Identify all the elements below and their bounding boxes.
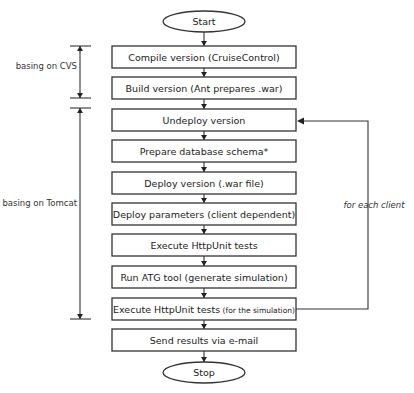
step-undeploy: Undeploy version — [112, 109, 296, 131]
arrow-down-icon — [201, 293, 207, 298]
arrow-down-icon — [77, 314, 83, 319]
step-label: Deploy version (.war file) — [144, 178, 264, 189]
loop-label: for each client — [344, 200, 406, 210]
arrow-down-icon — [201, 167, 207, 172]
loop-connector: for each client — [296, 118, 405, 310]
arrow-down-icon — [201, 261, 207, 266]
side-brackets: basing on CVSbasing on Tomcat — [2, 46, 91, 319]
arrow-down-icon — [201, 41, 207, 46]
flowchart: basing on CVSbasing on Tomcat for each c… — [0, 0, 414, 393]
step-note: (for the simulation) — [220, 306, 295, 315]
loop-line — [296, 121, 368, 309]
arrow-up-icon — [77, 46, 83, 51]
step-execute-tests: Execute HttpUnit tests — [112, 234, 296, 256]
step-deploy-version: Deploy version (.war file) — [112, 172, 296, 194]
arrow-down-icon — [77, 93, 83, 98]
stop-node: Stop — [163, 362, 245, 383]
bracket-label: basing on Tomcat — [2, 198, 77, 208]
arrow-down-icon — [201, 198, 207, 203]
step-label: Compile version (CruiseControl) — [128, 52, 279, 63]
step-label: Execute HttpUnit tests — [150, 240, 257, 251]
step-label: Execute HttpUnit tests (for the simulati… — [113, 304, 295, 315]
start-label: Start — [192, 16, 215, 27]
arrow-down-icon — [201, 324, 207, 329]
step-build: Build version (Ant prepares .war) — [112, 77, 296, 99]
step-send-results: Send results via e-mail — [112, 329, 296, 351]
arrow-down-icon — [201, 135, 207, 140]
bracket-tomcat: basing on Tomcat — [2, 108, 91, 319]
arrow-down-icon — [201, 229, 207, 234]
step-label: Run ATG tool (generate simulation) — [120, 272, 287, 283]
step-label: Prepare database schema* — [140, 146, 269, 157]
bracket-cvs: basing on CVS — [16, 46, 91, 98]
step-label: Deploy parameters (client dependent) — [113, 209, 295, 220]
arrow-down-icon — [201, 357, 207, 362]
step-label: Undeploy version — [163, 115, 246, 126]
step-prepare-db: Prepare database schema* — [112, 140, 296, 162]
step-execute-sim-tests: Execute HttpUnit tests (for the simulati… — [112, 298, 296, 320]
arrow-up-icon — [77, 108, 83, 113]
step-compile: Compile version (CruiseControl) — [112, 46, 296, 68]
start-node: Start — [163, 11, 245, 32]
step-deploy-params: Deploy parameters (client dependent) — [112, 203, 296, 225]
step-label: Send results via e-mail — [150, 335, 259, 346]
step-label: Build version (Ant prepares .war) — [126, 83, 283, 94]
stop-label: Stop — [193, 367, 215, 378]
bracket-label: basing on CVS — [16, 61, 77, 71]
step-run-atg: Run ATG tool (generate simulation) — [112, 266, 296, 288]
arrow-down-icon — [201, 72, 207, 77]
arrow-left-icon — [297, 118, 304, 125]
arrow-down-icon — [201, 104, 207, 109]
